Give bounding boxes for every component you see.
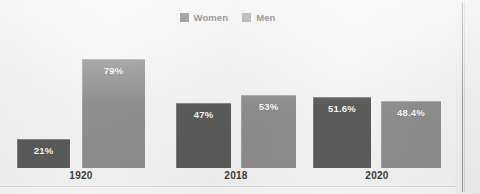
legend-swatch-women-icon [180,13,189,22]
bar-group-2018: 47% 53% [176,30,296,168]
x-tick-2020: 2020 [313,170,441,181]
right-gutter-rule [462,2,463,192]
x-axis-tick-labels: 1920 2018 2020 [0,170,455,184]
bar-chart-figure: Women Men 21% 79% 47% [0,0,480,194]
bar-group-2020: 51.6% 48.4% [313,30,441,168]
bottom-margin-fill [0,187,456,194]
bar-group-1920: 21% 79% [17,30,145,168]
bar-value-label: 79% [82,65,145,76]
bar-1920-men[interactable]: 79% [82,59,145,168]
chart-legend: Women Men [0,13,455,23]
bottom-divider-rule [0,186,456,187]
bar-value-label: 53% [241,101,296,112]
legend-item-men[interactable]: Men [242,13,275,23]
bar-2020-women[interactable]: 51.6% [313,97,371,168]
legend-item-women[interactable]: Women [180,13,229,23]
x-tick-2018: 2018 [176,170,296,181]
right-gutter-rule-shadow [464,2,465,192]
legend-label-men: Men [256,13,275,23]
legend-label-women: Women [194,13,229,23]
x-tick-1920: 1920 [17,170,145,181]
bars-plot-area: 21% 79% 47% 53% 51.6% [0,30,455,168]
legend-swatch-men-icon [242,13,251,22]
bar-value-label: 48.4% [381,107,441,118]
bar-2020-men[interactable]: 48.4% [381,101,441,168]
bar-value-label: 47% [176,109,231,120]
bar-value-label: 51.6% [313,103,371,114]
bar-1920-women[interactable]: 21% [17,139,70,168]
bar-value-label: 21% [17,145,70,156]
bar-2018-women[interactable]: 47% [176,103,231,168]
bar-2018-men[interactable]: 53% [241,95,296,168]
